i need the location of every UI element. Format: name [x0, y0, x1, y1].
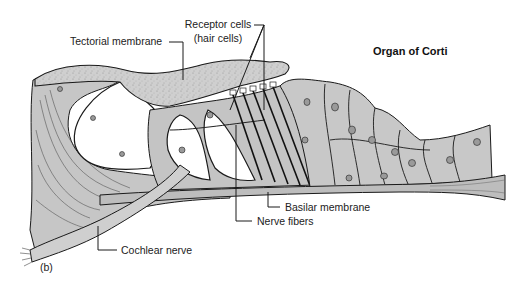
label-tectorial-membrane: Tectorial membrane: [70, 36, 162, 47]
label-basilar-membrane: Basilar membrane: [285, 202, 370, 213]
organ-of-corti-diagram: Organ of Corti Tectorial membrane Recept…: [0, 0, 513, 285]
label-nerve-fibers: Nerve fibers: [257, 216, 314, 227]
panel-label: (b): [40, 262, 53, 273]
figure-title: Organ of Corti: [373, 45, 448, 57]
supporting-cells: [280, 79, 492, 187]
label-receptor-cells-line1: Receptor cells: [185, 18, 252, 30]
label-receptor-cells-line2: (hair cells): [194, 33, 242, 44]
label-cochlear-nerve: Cochlear nerve: [121, 245, 192, 256]
label-receptor-cells: Receptor cells (hair cells): [182, 19, 254, 43]
